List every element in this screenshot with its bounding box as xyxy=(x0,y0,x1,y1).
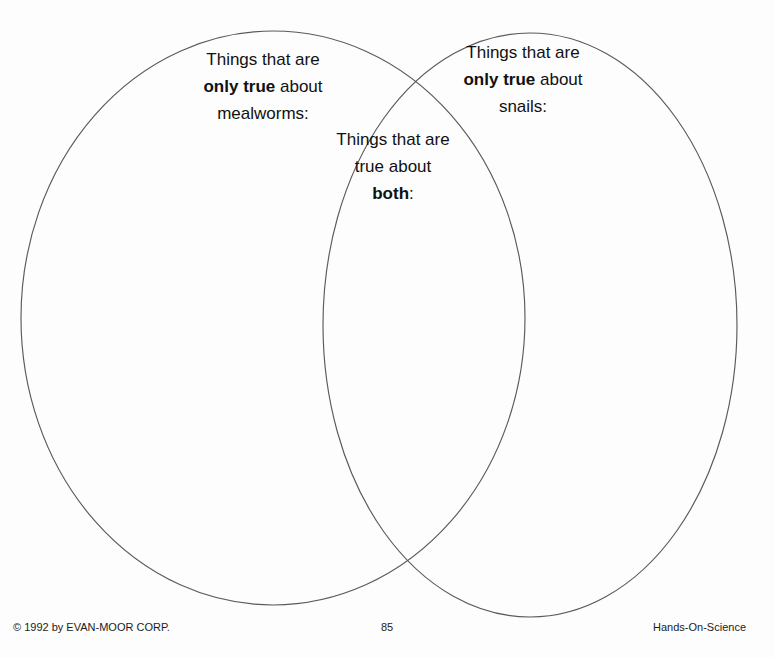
right-circle-label-emphasis: only true xyxy=(463,70,535,89)
overlap-label-line2: true about xyxy=(355,157,432,176)
worksheet-page: Things that are only true about mealworm… xyxy=(0,0,774,658)
overlap-label-line1: Things that are xyxy=(336,130,449,149)
overlap-label-line3-rest: : xyxy=(409,184,414,203)
footer-series-title: Hands-On-Science xyxy=(653,621,746,633)
left-circle-label-emphasis: only true xyxy=(203,77,275,96)
right-circle-label-line2-rest: about xyxy=(535,70,582,89)
left-circle-label-line2-rest: about xyxy=(275,77,322,96)
left-circle-label-line3: mealworms: xyxy=(217,104,309,123)
venn-diagram xyxy=(0,0,774,658)
left-circle-label-line1: Things that are xyxy=(206,50,319,69)
right-circle-label: Things that are only true about snails: xyxy=(413,39,633,120)
right-circle-label-line3: snails: xyxy=(499,97,547,116)
overlap-label: Things that are true about both: xyxy=(313,126,473,207)
overlap-label-emphasis: both xyxy=(372,184,409,203)
right-circle-label-line1: Things that are xyxy=(466,43,579,62)
left-circle-label: Things that are only true about mealworm… xyxy=(143,46,383,127)
right-circle-outline xyxy=(323,33,737,617)
